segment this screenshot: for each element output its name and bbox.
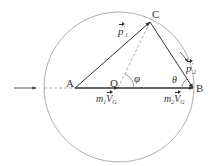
point-label-b: B bbox=[196, 83, 203, 94]
p1-symbol: p bbox=[118, 26, 124, 37]
label-m2vg: m2VG bbox=[164, 94, 185, 105]
angle-arc-phi bbox=[125, 74, 134, 88]
v1-subscript: G bbox=[112, 99, 116, 105]
label-p1: p′1 bbox=[118, 25, 128, 38]
angle-label-theta: θ bbox=[172, 75, 177, 85]
angle-label-phi: φ bbox=[134, 73, 140, 84]
point-label-o: O bbox=[110, 78, 118, 89]
v2-subscript: G bbox=[180, 99, 184, 105]
diagram-canvas bbox=[0, 0, 214, 166]
p1-subscript: 1 bbox=[125, 32, 128, 38]
v2-symbol: V bbox=[174, 94, 180, 104]
p2-symbol: p bbox=[186, 63, 192, 74]
point-label-a: A bbox=[66, 78, 74, 89]
v1-symbol: V bbox=[106, 94, 112, 104]
point-label-c: C bbox=[152, 9, 159, 20]
label-m1vg: m1VG bbox=[96, 94, 117, 105]
angle-arc-theta bbox=[182, 79, 187, 88]
p2-subscript: 2 bbox=[193, 69, 196, 75]
label-p2: p′2 bbox=[186, 62, 196, 75]
